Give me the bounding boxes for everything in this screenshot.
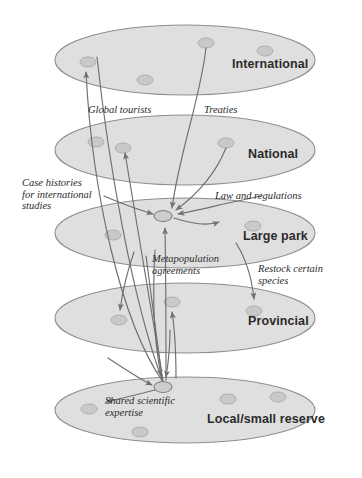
hierarchy-diagram: International National Large park Provin… [0,0,362,478]
level-label-provincial: Provincial [248,314,309,328]
reserve-node[interactable] [115,143,131,153]
flow-label-restock-certain-species: Restock certain species [257,263,326,286]
reserve-node[interactable] [220,394,236,404]
level-international[interactable]: International [55,25,315,95]
hub-node-large-park[interactable] [154,211,172,222]
reserve-node[interactable] [111,315,127,325]
reserve-node[interactable] [137,75,153,85]
flow-label-case-histories: Case histories for international studies [22,177,94,211]
flow-label-treaties: Treaties [204,104,237,115]
level-label-local-small-reserve: Local/small reserve [207,412,325,426]
reserve-node[interactable] [81,404,97,414]
reserve-node[interactable] [198,38,214,48]
diagram-canvas: International National Large park Provin… [0,0,362,478]
flow-label-law-and-regulations: Law and regulations [214,190,302,201]
level-label-national: National [248,147,298,161]
reserve-node[interactable] [132,427,148,437]
hub-node-local-reserve[interactable] [154,382,172,393]
level-provincial[interactable]: Provincial [55,283,315,353]
flow-label-global-tourists: Global tourists [88,104,151,115]
level-national[interactable]: National [55,115,315,185]
reserve-node[interactable] [80,57,96,67]
reserve-node[interactable] [257,46,273,56]
reserve-node[interactable] [88,137,104,147]
level-label-international: International [232,57,308,71]
level-local-small-reserve[interactable]: Local/small reserve [55,377,325,443]
reserve-node[interactable] [270,392,286,402]
reserve-node[interactable] [218,138,234,148]
level-label-large-park: Large park [243,229,308,243]
